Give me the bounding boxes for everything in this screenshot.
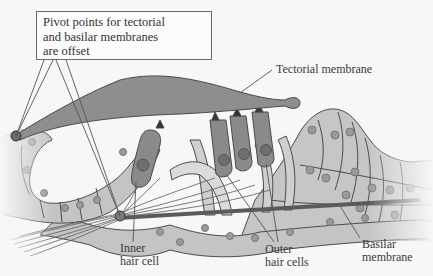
basilar-membrane-label: Basilar membrane — [362, 238, 413, 264]
pivot-points-callout: Pivot points for tectorial and basilar m… — [36, 11, 212, 60]
outer-hair-cells — [210, 104, 274, 177]
callout-line-1: Pivot points for tectorial — [43, 15, 205, 30]
inner-hair-cell — [132, 120, 164, 187]
callout-line-3: are offset — [43, 44, 205, 59]
basilar-membrane-label-line2: membrane — [362, 251, 413, 264]
inner-hair-cell-label: Inner hair cell — [120, 242, 159, 268]
outer-hair-cells-label: Outer hair cells — [265, 243, 309, 269]
outer-hair-cells-label-line2: hair cells — [265, 256, 309, 269]
tectorial-membrane-label: Tectorial membrane — [276, 63, 372, 76]
organ-of-corti-diagram: Pivot points for tectorial and basilar m… — [0, 0, 433, 276]
callout-line-2: and basilar membranes — [43, 30, 205, 45]
inner-hair-cell-label-line2: hair cell — [120, 255, 159, 268]
